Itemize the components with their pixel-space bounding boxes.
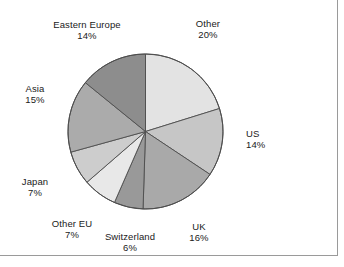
pie-label-uk: UK 16% (178, 221, 220, 243)
pie-label-japan: Japan 7% (13, 176, 57, 198)
pie-label-switzerland-value: 6% (93, 242, 167, 253)
pie-label-other-eu: Other EU 7% (43, 218, 101, 240)
pie-label-asia: Asia 15% (15, 83, 55, 105)
pie-label-switzerland: Switzerland 6% (93, 231, 167, 253)
pie-slices-group (68, 54, 223, 209)
pie-chart-figure: Other 20% US 14% UK 16% Switzerland 6% O… (0, 0, 344, 267)
pie-label-switzerland-name: Switzerland (93, 231, 167, 242)
pie-label-japan-name: Japan (13, 176, 57, 187)
pie-label-eastern-europe: Eastern Europe 14% (35, 19, 139, 41)
pie-label-other-eu-name: Other EU (43, 218, 101, 229)
pie-label-japan-value: 7% (13, 187, 57, 198)
pie-label-uk-name: UK (178, 221, 220, 232)
pie-label-uk-value: 16% (178, 232, 220, 243)
pie-label-eastern-europe-name: Eastern Europe (35, 19, 139, 30)
pie-label-us: US 14% (246, 128, 306, 150)
pie-label-eastern-europe-value: 14% (35, 30, 139, 41)
pie-label-asia-name: Asia (15, 83, 55, 94)
pie-label-other-name: Other (176, 18, 240, 29)
pie-label-other-eu-value: 7% (43, 229, 101, 240)
pie-label-other-value: 20% (176, 29, 240, 40)
pie-label-us-name: US (246, 128, 306, 139)
pie-label-us-value: 14% (246, 139, 306, 150)
pie-label-asia-value: 15% (15, 94, 55, 105)
pie-label-other: Other 20% (176, 18, 240, 40)
